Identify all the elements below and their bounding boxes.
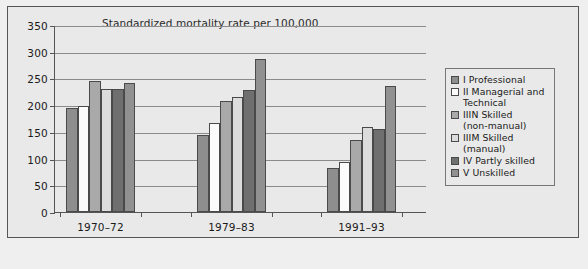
x-tick-label: 1979–83 [208,221,255,233]
x-tick-label: 1970–72 [77,221,124,233]
bar-group [66,26,135,212]
legend-item-label: II Managerial andTechnical [463,86,544,108]
bar[interactable] [373,129,385,212]
bar[interactable] [89,81,101,212]
legend-item[interactable]: IIIN Skilled(non-manual) [451,109,550,131]
x-tick-mark [321,212,322,217]
bar-group [197,26,266,212]
y-tick-label-250: 250 [27,73,48,85]
x-tick-label: 1991–93 [338,221,385,233]
bar[interactable] [243,90,255,212]
bar[interactable] [362,127,374,212]
legend-swatch-icon [451,88,459,96]
plot-area: 050100150200250300350 1970–721979–831991… [54,26,426,213]
y-tick-label-200: 200 [27,100,48,112]
bar[interactable] [78,106,90,212]
legend-item-label: IV Partly skilled [463,155,535,166]
bar[interactable] [327,168,339,212]
legend-swatch-icon [451,111,459,119]
bar-group [327,26,396,212]
bar[interactable] [220,101,232,212]
x-tick-mark [272,212,273,217]
legend-swatch-icon [451,134,459,142]
bar[interactable] [112,89,124,212]
legend-item[interactable]: IIIM Skilled(manual) [451,132,550,154]
x-tick-mark [141,212,142,217]
chart-legend: I ProfessionalII Managerial andTechnical… [445,68,555,186]
bar[interactable] [197,135,209,212]
legend-swatch-icon [451,76,459,84]
y-tick-label-350: 350 [27,20,48,32]
legend-item-label: I Professional [463,74,525,85]
bar[interactable] [66,108,78,212]
y-tick-label-0: 0 [41,207,48,219]
bar[interactable] [209,123,221,212]
legend-item-label: V Unskilled [463,167,515,178]
chart-figure: Standardized mortality rate per 100,000 … [7,6,579,238]
x-tick-mark [191,212,192,217]
y-tick-label-50: 50 [34,180,48,192]
bar[interactable] [255,59,267,212]
bar[interactable] [101,89,113,212]
bar-groups [55,26,426,212]
x-tick-mark [60,212,61,217]
legend-item-label: IIIM Skilled(manual) [463,132,513,154]
legend-swatch-icon [451,169,459,177]
y-tick-mark-0 [50,213,55,214]
y-tick-label-150: 150 [27,127,48,139]
bar[interactable] [232,97,244,212]
legend-swatch-icon [451,157,459,165]
legend-item[interactable]: V Unskilled [451,167,550,178]
bar[interactable] [385,86,397,212]
bar[interactable] [350,140,362,212]
legend-item-label: IIIN Skilled(non-manual) [463,109,527,131]
bar[interactable] [124,83,136,212]
bar[interactable] [339,162,351,212]
x-tick-mark [402,212,403,217]
legend-item[interactable]: II Managerial andTechnical [451,86,550,108]
y-tick-label-100: 100 [27,154,48,166]
legend-item[interactable]: IV Partly skilled [451,155,550,166]
legend-item[interactable]: I Professional [451,74,550,85]
y-tick-label-300: 300 [27,47,48,59]
